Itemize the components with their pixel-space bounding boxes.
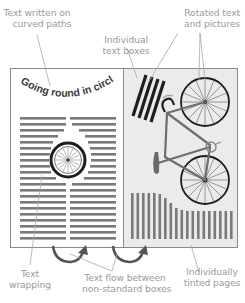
text-flow-arrows — [53, 246, 143, 262]
label-text-flow-line1: Text flow between — [82, 272, 168, 283]
right-page — [124, 69, 238, 248]
label-wrapping-line2: wrapping — [8, 279, 52, 290]
label-text-flow: Text flow between non-standard boxes — [82, 272, 168, 294]
label-text-flow-line2: non-standard boxes — [82, 283, 168, 294]
label-text-boxes-line2: text boxes — [98, 45, 154, 56]
label-wrapping: Text wrapping — [8, 268, 52, 290]
label-text-boxes-line1: Individual — [98, 34, 154, 45]
label-rotated-line1: Rotated text — [180, 7, 240, 18]
label-tinted: Individually tinted pages — [182, 266, 242, 288]
label-tinted-line1: Individually — [182, 266, 242, 277]
label-curved-paths-line1: Text written on — [2, 7, 72, 18]
bicycle-wheel-image — [49, 141, 87, 179]
label-tinted-line2: tinted pages — [182, 277, 242, 288]
label-curved-paths: Text written on curved paths — [2, 7, 72, 29]
label-wrapping-line1: Text — [8, 268, 52, 279]
label-curved-paths-line2: curved paths — [2, 18, 72, 29]
label-rotated: Rotated text and pictures — [180, 7, 240, 29]
label-rotated-line2: and pictures — [180, 18, 240, 29]
label-text-boxes: Individual text boxes — [98, 34, 154, 56]
